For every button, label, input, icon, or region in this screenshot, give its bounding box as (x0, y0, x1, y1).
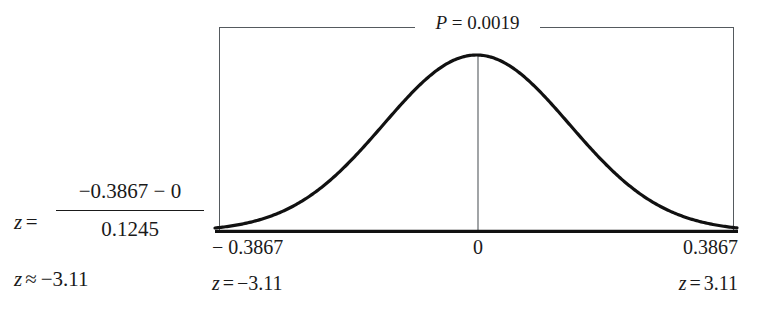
axis-tick-left-z-variable: z (212, 272, 220, 294)
axis-tick-right-value: 0.3867 (594, 236, 738, 259)
axis-tick-center-value: 0 (448, 236, 508, 259)
bell-curve-path (215, 55, 737, 228)
axis-tick-right-zscore: z=3.11 (594, 272, 738, 295)
fraction: −0.3867 − 0 0.1245 (56, 176, 204, 244)
axis-tick-right-z-value: 3.11 (704, 272, 738, 294)
formula-lead: z= (14, 210, 38, 235)
axis-tick-center: 0 (448, 236, 508, 259)
fraction-numerator: −0.3867 − 0 (56, 176, 204, 206)
axis-tick-left-value: − 0.3867 (212, 236, 283, 259)
normal-curve-svg (219, 27, 734, 239)
axis-tick-left-z-value: −3.11 (237, 272, 283, 294)
chart-plot-area: P = 0.0019 (219, 27, 734, 231)
formula-equals-sign: = (23, 210, 38, 234)
axis-tick-labels: − 0.3867 z=−3.11 0 0.3867 z=3.11 (0, 236, 760, 326)
normal-distribution-figure: z= −0.3867 − 0 0.1245 z≈−3.11 P = 0.0019… (0, 0, 760, 329)
axis-tick-left-zscore: z=−3.11 (212, 272, 283, 295)
axis-tick-right: 0.3867 z=3.11 (594, 236, 738, 295)
axis-tick-right-z-equals: = (686, 272, 703, 294)
axis-tick-left: − 0.3867 z=−3.11 (212, 236, 283, 295)
axis-tick-left-z-equals: = (220, 272, 237, 294)
fraction-bar (56, 210, 204, 211)
formula-variable: z (14, 210, 23, 234)
